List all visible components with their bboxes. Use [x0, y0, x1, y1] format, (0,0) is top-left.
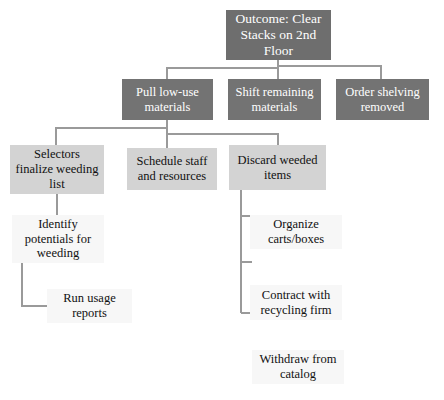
node-selectors-finalize-weeding-list-label: Selectors finalize weeding list [16, 147, 99, 191]
node-organize-carts-boxes[interactable]: Organize carts/boxes [250, 215, 342, 249]
node-run-usage-reports-label: Run usage reports [63, 291, 115, 321]
node-selectors-finalize-weeding-list[interactable]: Selectors finalize weeding list [10, 145, 104, 194]
node-order-shelving-removed-label: Order shelving removed [345, 85, 420, 115]
node-schedule-staff-and-resources-label: Schedule staff and resources [137, 154, 208, 184]
node-shift-remaining-materials[interactable]: Shift remaining materials [228, 79, 321, 120]
edge-pull-to-discard [167, 134, 278, 145]
edge-pull-to-selectors [56, 120, 167, 145]
node-outcome[interactable]: Outcome: Clear Stacks on 2nd Floor [226, 10, 331, 60]
connector-lines [0, 0, 444, 400]
node-order-shelving-removed[interactable]: Order shelving removed [336, 79, 429, 120]
edge-outcome-to-order-shelving [278, 66, 381, 79]
edge-outcome-to-pull-low-use [167, 60, 278, 79]
node-discard-weeded-items[interactable]: Discard weeded items [229, 145, 326, 190]
org-chart-diagram: Outcome: Clear Stacks on 2nd Floor Pull … [0, 0, 444, 400]
node-outcome-label: Outcome: Clear Stacks on 2nd Floor [236, 11, 322, 59]
node-identify-potentials-for-weeding-label: Identify potentials for weeding [25, 217, 91, 261]
node-contract-with-recycling-firm[interactable]: Contract with recycling firm [250, 285, 342, 320]
node-run-usage-reports[interactable]: Run usage reports [47, 289, 132, 323]
node-discard-weeded-items-label: Discard weeded items [237, 153, 317, 183]
edge-identify-to-run-usage [22, 263, 47, 306]
node-withdraw-from-catalog[interactable]: Withdraw from catalog [252, 350, 344, 384]
node-withdraw-from-catalog-label: Withdraw from catalog [260, 352, 337, 382]
node-pull-low-use-materials-label: Pull low-use materials [136, 85, 199, 115]
node-shift-remaining-materials-label: Shift remaining materials [235, 85, 313, 115]
node-schedule-staff-and-resources[interactable]: Schedule staff and resources [127, 148, 217, 190]
node-identify-potentials-for-weeding[interactable]: Identify potentials for weeding [12, 215, 104, 263]
node-pull-low-use-materials[interactable]: Pull low-use materials [122, 79, 213, 120]
node-organize-carts-boxes-label: Organize carts/boxes [268, 217, 324, 247]
node-contract-with-recycling-firm-label: Contract with recycling firm [260, 288, 331, 318]
